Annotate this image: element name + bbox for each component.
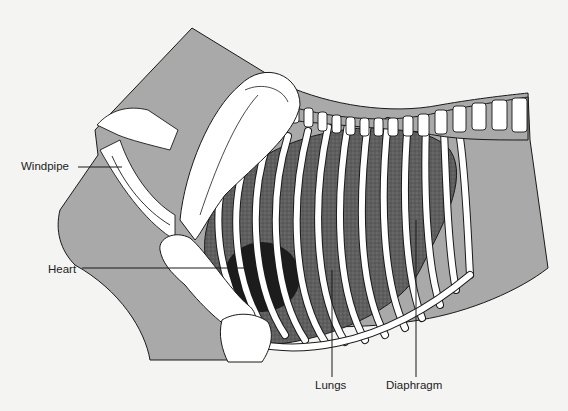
label-lungs: Lungs [315,380,346,392]
label-heart: Heart [48,264,76,276]
label-windpipe: Windpipe [21,161,69,173]
thorax-diagram [0,0,568,411]
forearm [220,314,271,362]
label-diaphragm: Diaphragm [386,380,442,392]
